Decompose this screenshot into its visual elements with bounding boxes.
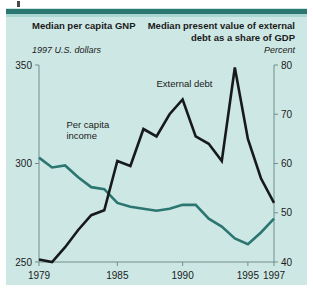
x-tick-label: 1997 bbox=[263, 270, 286, 281]
chart-svg: 250300350405060708019791985199019951997 … bbox=[0, 0, 313, 292]
series-annotation: Per capitaincome bbox=[66, 119, 109, 141]
chart-axes bbox=[35, 65, 278, 266]
right-tick-label: 60 bbox=[281, 158, 293, 169]
chart-tick-labels: 250300350405060708019791985199019951997 bbox=[15, 60, 292, 282]
x-tick-label: 1995 bbox=[237, 270, 260, 281]
series-line-external-debt bbox=[39, 67, 274, 262]
x-tick-label: 1979 bbox=[28, 270, 51, 281]
left-tick-label: 250 bbox=[15, 257, 32, 268]
series-line-per-capita-income bbox=[39, 158, 274, 245]
x-tick-label: 1985 bbox=[106, 270, 129, 281]
left-tick-label: 300 bbox=[15, 158, 32, 169]
right-tick-label: 80 bbox=[281, 60, 293, 71]
figure-container: Median per capita GNP 1997 U.S. dollars … bbox=[0, 0, 313, 292]
right-tick-label: 50 bbox=[281, 207, 293, 218]
left-tick-label: 350 bbox=[15, 60, 32, 71]
x-tick-label: 1990 bbox=[171, 270, 194, 281]
right-tick-label: 70 bbox=[281, 109, 293, 120]
chart-annotations: Per capitaincomeExternal debt bbox=[66, 78, 212, 141]
right-tick-label: 40 bbox=[281, 257, 293, 268]
series-annotation: External debt bbox=[157, 78, 213, 89]
chart-series bbox=[39, 67, 274, 262]
plot-area: 250300350405060708019791985199019951997 … bbox=[0, 0, 313, 292]
